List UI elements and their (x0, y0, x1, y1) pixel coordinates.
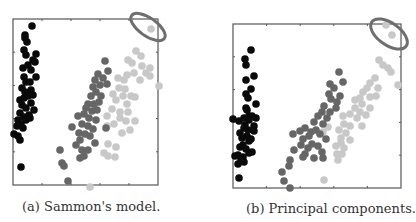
data-point (238, 134, 246, 142)
data-point (231, 152, 239, 160)
data-point (299, 153, 307, 161)
data-point (278, 168, 286, 176)
data-point (290, 146, 298, 154)
data-point (335, 68, 343, 76)
data-point (244, 94, 252, 102)
data-point (335, 126, 343, 134)
series-class1 (229, 46, 260, 182)
data-point (358, 122, 366, 130)
data-point (242, 61, 250, 69)
data-point (297, 141, 305, 149)
data-point (286, 184, 294, 192)
data-point (372, 92, 380, 100)
data-point (229, 115, 237, 123)
data-point (252, 100, 260, 108)
data-point (310, 118, 318, 126)
data-point (301, 124, 309, 132)
data-point (388, 31, 396, 39)
data-point (280, 177, 288, 185)
data-point (247, 46, 255, 54)
data-point (353, 114, 361, 122)
data-point (316, 130, 324, 138)
data-point (346, 110, 354, 118)
data-point (322, 135, 330, 143)
data-point (387, 68, 395, 76)
data-point (310, 154, 318, 162)
data-point (247, 135, 255, 143)
data-point (289, 130, 297, 138)
data-point (236, 143, 244, 151)
data-point (337, 134, 345, 142)
data-point (330, 84, 338, 92)
data-point (332, 142, 340, 150)
data-point (242, 76, 250, 84)
caption-b: (b) Principal components. (246, 201, 416, 216)
data-point (240, 124, 248, 132)
data-point (358, 100, 366, 108)
outlier-highlight-ellipse (365, 13, 411, 55)
data-point (235, 174, 243, 182)
data-point (285, 162, 293, 170)
data-point (250, 72, 258, 80)
data-point (374, 84, 382, 92)
data-point (250, 127, 258, 135)
data-point (339, 78, 347, 86)
data-point (334, 156, 342, 164)
data-point (394, 81, 402, 89)
data-point (245, 116, 253, 124)
data-point (252, 114, 260, 122)
data-point (366, 104, 374, 112)
data-point (346, 136, 354, 144)
data-point (332, 104, 340, 112)
data-point (319, 120, 327, 128)
data-point (351, 96, 359, 104)
data-point (243, 106, 251, 114)
data-point (346, 122, 354, 130)
data-point (339, 112, 347, 120)
data-point (247, 85, 255, 93)
data-point (362, 111, 370, 119)
data-point (320, 176, 328, 184)
data-point (319, 154, 327, 162)
data-point (239, 153, 247, 161)
